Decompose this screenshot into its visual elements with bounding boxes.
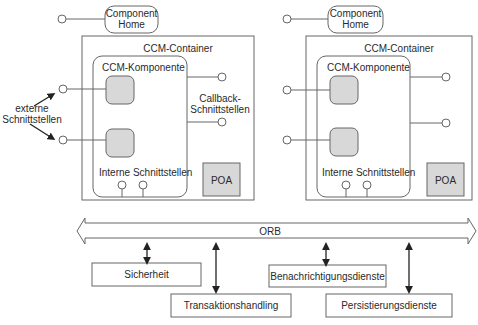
external-interface-icon xyxy=(59,85,67,93)
facet-box xyxy=(330,128,358,156)
poa-label: POA xyxy=(427,175,464,186)
callback-interface-icon xyxy=(442,119,450,127)
container-label: CCM-Container xyxy=(306,43,472,54)
label-line: Home xyxy=(328,19,383,30)
home-interface-icon xyxy=(283,15,291,23)
facet-box xyxy=(330,76,358,104)
external-interface-icon xyxy=(59,136,67,144)
internal-interface-icon xyxy=(363,181,371,189)
service-label: Transaktionshandling xyxy=(171,300,291,311)
component-home-label: Component Home xyxy=(328,8,383,30)
external-interfaces-label: externe Schnittstellen xyxy=(2,103,62,125)
label-line: Component xyxy=(328,8,383,19)
internal-interfaces-label: Interne Schnittstellen xyxy=(99,167,192,178)
service-label: Sicherheit xyxy=(92,269,201,280)
facet-box xyxy=(106,129,134,157)
internal-interface-icon xyxy=(342,181,350,189)
orb-label: ORB xyxy=(240,226,300,237)
label-line: Home xyxy=(105,19,158,30)
facet-box xyxy=(106,76,134,104)
internal-interface-icon xyxy=(118,181,126,189)
external-pointer-arrow xyxy=(30,124,52,138)
service-label: Persistierungsdienste xyxy=(326,300,452,311)
callback-interface-icon xyxy=(442,73,450,81)
internal-interface-icon xyxy=(139,181,147,189)
component-label: CCM-Komponente xyxy=(327,62,410,73)
label-line: Schnittstellen xyxy=(2,114,62,125)
service-label: Benachrichtigungsdienste xyxy=(269,271,386,282)
home-interface-icon xyxy=(58,15,66,23)
container-label: CCM-Container xyxy=(82,43,254,54)
callback-interface-icon xyxy=(218,73,226,81)
callback-label: Callback- Schnittstellen xyxy=(190,93,250,115)
external-interface-icon xyxy=(283,86,291,94)
label-line: Component xyxy=(105,8,158,19)
component-home-label: Component Home xyxy=(105,8,158,30)
callback-interface-icon xyxy=(218,118,226,126)
component-label: CCM-Komponente xyxy=(102,62,185,73)
poa-label: POA xyxy=(203,175,240,186)
label-line: Callback- xyxy=(190,93,250,104)
label-line: Schnittstellen xyxy=(190,104,250,115)
external-interface-icon xyxy=(283,136,291,144)
internal-interfaces-label: Interne Schnittstellen xyxy=(322,167,415,178)
label-line: externe xyxy=(2,103,62,114)
